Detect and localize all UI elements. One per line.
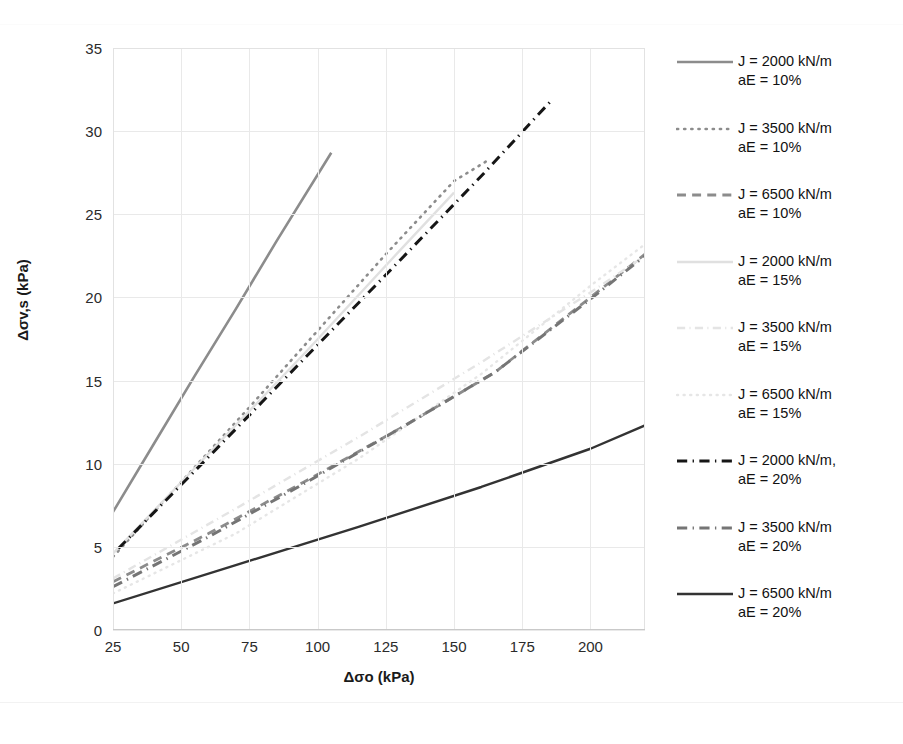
plot-area xyxy=(113,48,645,630)
legend-item[interactable]: J = 6500 kN/m aE = 20% xyxy=(676,584,896,630)
x-tick-label: 75 xyxy=(241,638,258,655)
legend-swatch-7 xyxy=(676,454,734,468)
x-tick-label: 25 xyxy=(105,638,122,655)
y-tick-label: 20 xyxy=(85,289,102,306)
gridline-horizontal xyxy=(113,630,645,631)
legend-label: J = 6500 kN/m aE = 20% xyxy=(738,584,832,622)
legend-item[interactable]: J = 3500 kN/m aE = 20% xyxy=(676,518,896,564)
x-tick-label: 100 xyxy=(305,638,330,655)
y-tick-label: 5 xyxy=(94,538,102,555)
legend-label: J = 3500 kN/m aE = 20% xyxy=(738,518,832,556)
x-axis-title: Δσo (kPa) xyxy=(343,668,414,685)
legend-swatch-6 xyxy=(676,388,734,402)
y-tick-label: 30 xyxy=(85,123,102,140)
legend-label: J = 3500 kN/m aE = 15% xyxy=(738,318,832,356)
chart-legend: J = 2000 kN/m aE = 10%J = 3500 kN/m aE =… xyxy=(676,52,896,652)
legend-swatch-3 xyxy=(676,188,734,202)
legend-label: J = 6500 kN/m aE = 15% xyxy=(738,385,832,423)
legend-swatch-1 xyxy=(676,55,734,69)
x-axis-line xyxy=(113,629,645,630)
x-tick-label: 150 xyxy=(442,638,467,655)
page-bottom-rule xyxy=(0,702,903,703)
legend-item[interactable]: J = 6500 kN/m aE = 15% xyxy=(676,385,896,431)
x-tick-label: 50 xyxy=(173,638,190,655)
legend-label: J = 2000 kN/m, aE = 20% xyxy=(738,451,836,489)
legend-item[interactable]: J = 2000 kN/m, aE = 20% xyxy=(676,451,896,497)
legend-label: J = 6500 kN/m aE = 10% xyxy=(738,185,832,223)
legend-item[interactable]: J = 3500 kN/m aE = 10% xyxy=(676,119,896,165)
legend-item[interactable]: J = 2000 kN/m aE = 10% xyxy=(676,52,896,98)
plot-border xyxy=(113,48,645,630)
x-tick-label: 125 xyxy=(373,638,398,655)
y-axis-title: Δσv,s (kPa) xyxy=(14,259,31,341)
legend-label: J = 2000 kN/m aE = 10% xyxy=(738,52,832,90)
y-tick-label: 10 xyxy=(85,455,102,472)
legend-swatch-4 xyxy=(676,255,734,269)
legend-label: J = 3500 kN/m aE = 10% xyxy=(738,119,832,157)
legend-swatch-9 xyxy=(676,587,734,601)
legend-label: J = 2000 kN/m aE = 15% xyxy=(738,252,832,290)
x-tick-label: 200 xyxy=(578,638,603,655)
legend-swatch-2 xyxy=(676,122,734,136)
y-tick-label: 0 xyxy=(94,622,102,639)
y-tick-label: 15 xyxy=(85,372,102,389)
y-tick-label: 35 xyxy=(85,40,102,57)
legend-item[interactable]: J = 2000 kN/m aE = 15% xyxy=(676,252,896,298)
chart-figure: Δσv,s (kPa) 05101520253035 2550751001251… xyxy=(0,0,903,744)
x-axis-ticks: 255075100125150175200 xyxy=(113,638,645,662)
legend-swatch-8 xyxy=(676,521,734,535)
legend-swatch-5 xyxy=(676,321,734,335)
x-tick-label: 175 xyxy=(510,638,535,655)
y-axis-ticks: 05101520253035 xyxy=(60,48,102,630)
legend-item[interactable]: J = 3500 kN/m aE = 15% xyxy=(676,318,896,364)
page-top-rule xyxy=(0,24,903,25)
legend-item[interactable]: J = 6500 kN/m aE = 10% xyxy=(676,185,896,231)
y-tick-label: 25 xyxy=(85,206,102,223)
